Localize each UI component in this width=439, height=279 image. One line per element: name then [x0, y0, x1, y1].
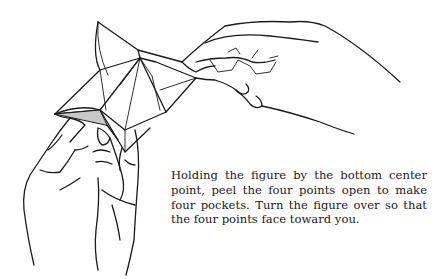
- caption-line: Holding the figure by the bottom center: [171, 168, 427, 183]
- instruction-caption: Holding the figure by the bottom center …: [171, 168, 427, 227]
- origami-figure-icon: [55, 22, 196, 152]
- caption-line: four pockets. Turn the figure over so th…: [171, 198, 427, 213]
- left-hand-icon: [24, 114, 139, 275]
- right-hand-icon: [182, 22, 400, 135]
- origami-illustration: [0, 0, 439, 279]
- caption-line: point, peel the four points open to make: [171, 183, 427, 198]
- caption-line: the four points face toward you.: [171, 212, 427, 227]
